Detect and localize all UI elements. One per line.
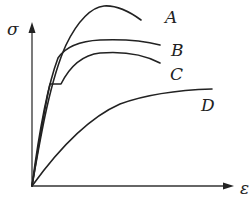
curve-d-label: D [200,95,215,115]
stress-strain-diagram: σ ε A B C D [0,0,252,202]
curve-b-label: B [170,40,184,60]
curve-labels: A B C D [163,7,215,115]
curve-d [32,89,212,186]
curve-a-label: A [163,7,177,27]
stress-axis-arrow-icon [29,22,36,33]
curve-b [32,40,160,186]
strain-axis-arrow-icon [223,183,234,190]
curve-c-label: C [170,64,183,84]
curves [32,6,212,186]
curve-a [32,6,141,186]
stress-axis-label: σ [7,19,19,39]
strain-axis-label: ε [240,178,249,198]
curve-c [32,52,160,186]
